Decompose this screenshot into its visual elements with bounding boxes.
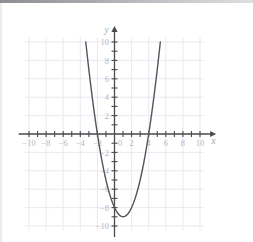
x-tick-label: −10	[22, 138, 35, 148]
y-tick-label: −10	[96, 221, 109, 231]
plot-svg: −10−8−6−4−2246810108642−2−4−6−8−100 x y	[0, 3, 253, 242]
x-tick-label: 8	[181, 138, 185, 148]
x-tick-label: −6	[59, 138, 68, 148]
origin-label: 0	[118, 138, 122, 148]
axes	[19, 26, 216, 237]
y-tick-label: 2	[105, 111, 109, 121]
x-tick-label: 2	[129, 138, 133, 148]
x-axis-label: x	[211, 136, 217, 146]
x-tick-label: −4	[76, 138, 86, 148]
y-axis-arrow	[111, 26, 117, 32]
graph-screenshot: −10−8−6−4−2246810108642−2−4−6−8−100 x y	[0, 0, 253, 242]
x-tick-label: −2	[93, 138, 102, 148]
y-axis-label: y	[103, 25, 109, 35]
y-tick-label: 10	[101, 37, 110, 47]
x-tick-label: 6	[164, 138, 168, 148]
y-tick-label: 6	[105, 74, 109, 84]
y-tick-label: −8	[100, 203, 109, 213]
coordinate-plane-figure: −10−8−6−4−2246810108642−2−4−6−8−100 x y	[0, 3, 253, 242]
y-tick-label: 8	[105, 56, 109, 66]
x-tick-label: 10	[196, 138, 205, 148]
x-tick-label: −8	[42, 138, 51, 148]
